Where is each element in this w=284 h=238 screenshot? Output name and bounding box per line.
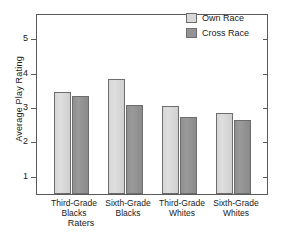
x-axis-category-line1: Third-Grade (51, 198, 97, 208)
y-axis-tick-mark (31, 177, 36, 178)
bar-group (159, 15, 205, 194)
legend-item-own-race: Own Race (186, 11, 249, 24)
y-axis-tick: 5 (0, 39, 36, 40)
x-axis-category-line1: Third-Grade (159, 198, 205, 208)
y-axis-tick: 4 (0, 74, 36, 75)
legend-swatch-cross-race (186, 28, 197, 38)
y-axis-tick-label: 5 (8, 33, 28, 44)
y-axis-tick-label: 1 (8, 171, 28, 182)
y-axis-tick-mark (31, 39, 36, 40)
legend-swatch-own-race (186, 13, 197, 23)
bar-cross-race (72, 96, 89, 194)
y-axis-tick: 1 (0, 177, 36, 178)
y-axis-tick: 3 (0, 108, 36, 109)
legend-item-cross-race: Cross Race (186, 26, 249, 39)
x-axis-category-line1: Sixth-Grade (105, 198, 150, 208)
legend-label-own-race: Own Race (202, 13, 244, 23)
bar-group (105, 15, 151, 194)
bar-own-race (108, 79, 125, 194)
legend: Own Race Cross Race (186, 11, 249, 41)
bar-cross-race (126, 105, 143, 195)
bar-cross-race (234, 120, 251, 194)
bar-group (51, 15, 97, 194)
y-axis-tick-label: 2 (8, 136, 28, 147)
x-axis-category-label: Sixth-GradeWhites (203, 198, 269, 218)
bar-own-race (162, 106, 179, 194)
bar-chart: Average Play Rating Raters 12345 Third-G… (0, 0, 284, 238)
y-axis-tick-mark (31, 74, 36, 75)
bar-own-race (54, 92, 71, 194)
x-axis-category-line2: Whites (203, 208, 269, 218)
legend-label-cross-race: Cross Race (202, 28, 249, 38)
y-axis-tick-label: 3 (8, 102, 28, 113)
x-axis-category-line1: Sixth-Grade (213, 198, 258, 208)
y-axis-tick-mark (31, 142, 36, 143)
x-axis-title: Raters (36, 218, 126, 228)
bar-group (213, 15, 259, 194)
y-axis-tick-label: 4 (8, 68, 28, 79)
bar-own-race (216, 113, 233, 194)
y-axis-tick: 2 (0, 142, 36, 143)
y-axis-tick-mark (31, 108, 36, 109)
bar-cross-race (180, 117, 197, 194)
bar-series-container (37, 15, 267, 194)
